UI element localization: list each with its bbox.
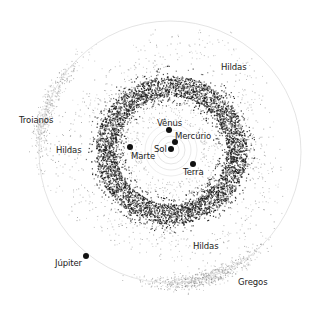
venus-label: Vênus [157,119,182,128]
jupiter-label: Júpiter [55,259,82,268]
earth-label: Terra [183,168,204,177]
hildas-label-left: Hildas [56,146,82,155]
solar-system-diagram [0,0,317,310]
jupiter-dot [83,253,89,259]
trojans-label: Troianos [19,116,53,125]
mars-dot [127,144,133,150]
greeks-label: Gregos [238,278,268,287]
sun-dot [168,146,174,152]
mars-label: Marte [131,152,155,161]
mercury-label: Mercúrio [175,132,211,141]
hildas-label-bottom: Hildas [193,242,219,251]
sun-label: Sol [154,145,167,154]
hildas-label-top: Hildas [221,63,247,72]
